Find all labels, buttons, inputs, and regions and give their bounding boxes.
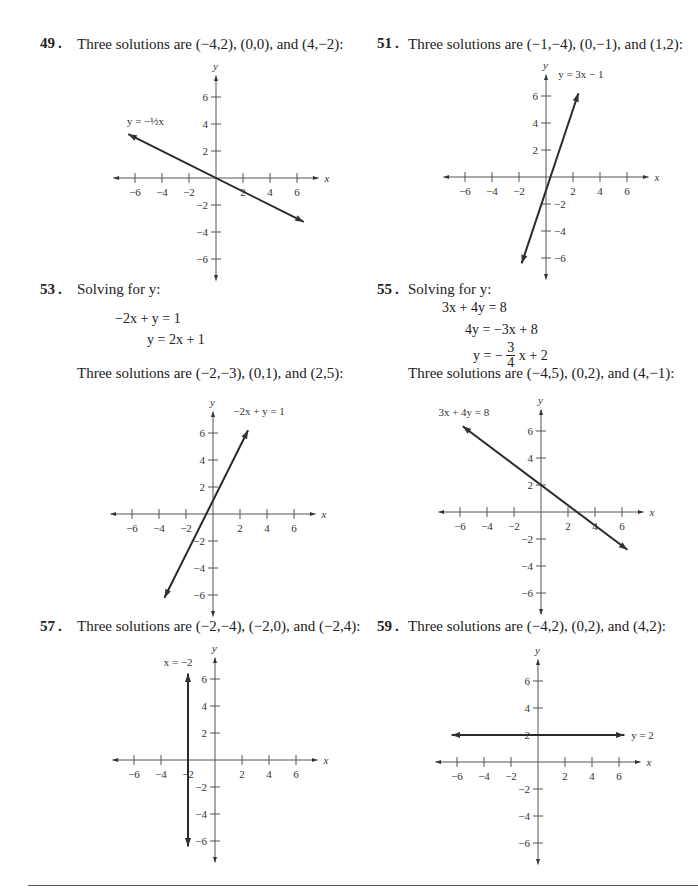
problem-statement: Three solutions are (−4,5), (0,2), and (… bbox=[408, 365, 674, 382]
svg-text:y: y bbox=[212, 60, 218, 72]
problem-number: 57 bbox=[40, 618, 55, 635]
svg-text:−4: −4 bbox=[481, 520, 493, 532]
svg-text:−4: −4 bbox=[554, 225, 566, 237]
problem-statement: Three solutions are (−4,2), (0,0), and (… bbox=[77, 36, 343, 53]
svg-text:−6: −6 bbox=[196, 253, 208, 265]
svg-text:−2x + y = 1: −2x + y = 1 bbox=[233, 405, 285, 417]
equation-step: 4y = −3x + 8 bbox=[465, 322, 538, 338]
period: . bbox=[58, 618, 62, 635]
graph-49: xy−6−6−4−4−2−2224466y = −½x bbox=[216, 178, 217, 179]
svg-text:−2: −2 bbox=[518, 783, 530, 795]
svg-text:6: 6 bbox=[293, 768, 299, 780]
svg-text:6: 6 bbox=[291, 522, 297, 534]
svg-text:−2: −2 bbox=[195, 781, 207, 793]
svg-text:2: 2 bbox=[239, 768, 245, 780]
svg-text:x: x bbox=[654, 171, 660, 183]
svg-text:−2: −2 bbox=[513, 185, 525, 197]
svg-text:y: y bbox=[211, 642, 217, 654]
svg-text:4: 4 bbox=[589, 770, 595, 782]
svg-text:−4: −4 bbox=[486, 185, 498, 197]
svg-text:y = 3x − 1: y = 3x − 1 bbox=[558, 68, 603, 80]
equation-step: y = 2x + 1 bbox=[147, 332, 205, 348]
period: . bbox=[58, 281, 62, 298]
problem-number: 55 bbox=[377, 281, 392, 298]
svg-text:6: 6 bbox=[616, 770, 622, 782]
svg-text:−6: −6 bbox=[193, 589, 205, 601]
svg-text:−6: −6 bbox=[459, 185, 471, 197]
svg-text:−2: −2 bbox=[521, 533, 533, 545]
svg-text:4: 4 bbox=[528, 452, 534, 464]
equation-step: 3x + 4y = 8 bbox=[442, 300, 507, 316]
svg-text:−4: −4 bbox=[195, 808, 207, 820]
svg-text:x = −2: x = −2 bbox=[164, 656, 193, 668]
problem-intro: Solving for y: bbox=[77, 281, 160, 298]
problem-number: 51 bbox=[377, 35, 392, 52]
svg-text:6: 6 bbox=[619, 520, 625, 532]
svg-text:6: 6 bbox=[533, 90, 539, 102]
graph-57: xy−6−6−4−4−2−2224466x = −2 bbox=[215, 760, 216, 761]
svg-text:−2: −2 bbox=[505, 770, 517, 782]
problem-number: 53 bbox=[40, 281, 55, 298]
svg-text:y: y bbox=[537, 394, 543, 406]
svg-text:3x + 4y = 8: 3x + 4y = 8 bbox=[438, 406, 489, 418]
period: . bbox=[395, 618, 399, 635]
period: . bbox=[395, 281, 399, 298]
svg-text:6: 6 bbox=[200, 427, 206, 439]
svg-text:2: 2 bbox=[570, 185, 576, 197]
problem-statement: Three solutions are (−2,−3), (0,1), and … bbox=[77, 365, 343, 382]
svg-text:4: 4 bbox=[525, 702, 531, 714]
problem-number: 49 bbox=[40, 35, 55, 52]
svg-text:x: x bbox=[321, 508, 327, 520]
svg-text:−2: −2 bbox=[183, 186, 195, 198]
svg-text:2: 2 bbox=[203, 145, 209, 157]
svg-text:2: 2 bbox=[202, 727, 208, 739]
svg-text:4: 4 bbox=[202, 700, 208, 712]
svg-text:4: 4 bbox=[597, 185, 603, 197]
svg-text:4: 4 bbox=[203, 118, 209, 130]
svg-text:4: 4 bbox=[266, 768, 272, 780]
problem-statement: Three solutions are (−4,2), (0,2), and (… bbox=[408, 618, 666, 635]
svg-text:−4: −4 bbox=[478, 770, 490, 782]
svg-text:−2: −2 bbox=[554, 198, 566, 210]
svg-text:6: 6 bbox=[624, 185, 630, 197]
svg-text:2: 2 bbox=[565, 520, 571, 532]
svg-text:−4: −4 bbox=[153, 522, 165, 534]
svg-text:2: 2 bbox=[528, 479, 534, 491]
svg-text:−6: −6 bbox=[128, 768, 140, 780]
svg-text:−4: −4 bbox=[155, 768, 167, 780]
svg-text:4: 4 bbox=[267, 186, 273, 198]
period: . bbox=[58, 35, 62, 52]
svg-text:6: 6 bbox=[203, 91, 209, 103]
svg-text:4: 4 bbox=[264, 522, 270, 534]
period: . bbox=[395, 35, 399, 52]
svg-text:x: x bbox=[323, 754, 329, 766]
svg-text:−6: −6 bbox=[554, 252, 566, 264]
svg-text:4: 4 bbox=[533, 117, 539, 129]
svg-text:2: 2 bbox=[533, 144, 539, 156]
svg-text:−4: −4 bbox=[518, 810, 530, 822]
equation-step: −2x + y = 1 bbox=[115, 311, 181, 327]
problem-number: 59 bbox=[377, 618, 392, 635]
graph-59: xy−6−6−4−4−2−2224466y = 2 bbox=[538, 762, 539, 763]
graph-55: xy−6−6−4−4−2−22244663x + 4y = 8 bbox=[541, 512, 542, 513]
svg-text:−4: −4 bbox=[521, 560, 533, 572]
svg-text:6: 6 bbox=[525, 675, 531, 687]
svg-text:y = −½x: y = −½x bbox=[127, 115, 165, 127]
svg-text:x: x bbox=[646, 756, 652, 768]
svg-text:y: y bbox=[534, 644, 540, 656]
svg-text:y: y bbox=[209, 396, 215, 408]
svg-text:y: y bbox=[542, 59, 548, 71]
svg-text:−6: −6 bbox=[518, 837, 530, 849]
svg-text:6: 6 bbox=[294, 186, 300, 198]
svg-text:2: 2 bbox=[562, 770, 568, 782]
graph-53: xy−6−6−4−4−2−2224466−2x + y = 1 bbox=[213, 514, 214, 515]
svg-text:−4: −4 bbox=[196, 226, 208, 238]
svg-text:−4: −4 bbox=[193, 562, 205, 574]
svg-text:−2: −2 bbox=[180, 522, 192, 534]
svg-text:−6: −6 bbox=[126, 522, 138, 534]
svg-text:y = 2: y = 2 bbox=[631, 729, 654, 741]
svg-text:2: 2 bbox=[237, 522, 243, 534]
svg-text:−6: −6 bbox=[195, 835, 207, 847]
svg-text:6: 6 bbox=[528, 425, 534, 437]
svg-text:2: 2 bbox=[200, 481, 206, 493]
